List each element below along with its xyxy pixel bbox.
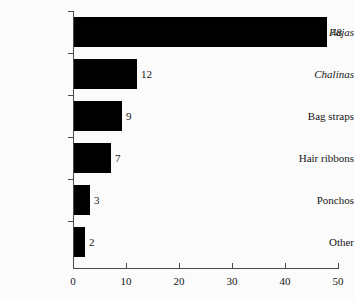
category-label-other: Other [290, 237, 354, 248]
x-axis-tick-label-40: 40 [280, 276, 291, 287]
bar-hair-ribbons [74, 143, 111, 173]
bar-fajas [74, 17, 327, 47]
x-axis-tick-label-10: 10 [121, 276, 132, 287]
x-axis-tick [179, 263, 180, 269]
value-label-other: 2 [89, 237, 95, 248]
bar-chalinas [74, 59, 137, 89]
x-axis-tick [338, 263, 339, 269]
bar-other [74, 227, 85, 257]
y-axis-tick [68, 95, 73, 96]
value-label-fajas: 48 [331, 27, 342, 38]
x-axis-tick [126, 263, 127, 269]
value-label-hair-ribbons: 7 [115, 153, 121, 164]
y-axis-tick [68, 179, 73, 180]
value-label-chalinas: 12 [141, 69, 152, 80]
x-axis-tick-label-20: 20 [174, 276, 185, 287]
x-axis-tick-label-30: 30 [227, 276, 238, 287]
value-label-ponchos: 3 [94, 195, 100, 206]
x-axis-tick [73, 263, 74, 269]
category-label-chalinas: Chalinas [290, 69, 354, 80]
value-label-bag-straps: 9 [126, 111, 132, 122]
y-axis-tick [68, 53, 73, 54]
x-axis-tick-label-50: 50 [333, 276, 344, 287]
x-axis-tick-label-0: 0 [70, 276, 76, 287]
y-axis-tick [68, 221, 73, 222]
x-axis-line [73, 268, 339, 269]
category-label-ponchos: Ponchos [290, 195, 354, 206]
x-axis-tick [232, 263, 233, 269]
category-label-hair-ribbons: Hair ribbons [290, 153, 354, 164]
y-axis-tick [68, 11, 73, 12]
bar-chart: Fajas Chalinas Bag straps Hair ribbons P… [0, 0, 354, 300]
y-axis-line [73, 11, 74, 269]
bar-bag-straps [74, 101, 122, 131]
bar-ponchos [74, 185, 90, 215]
category-label-bag-straps: Bag straps [290, 111, 354, 122]
x-axis-tick [285, 263, 286, 269]
y-axis-tick [68, 137, 73, 138]
